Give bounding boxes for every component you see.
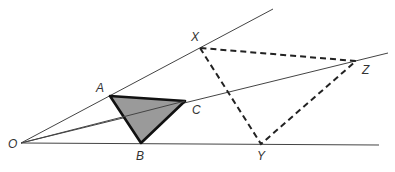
rays <box>21 9 388 145</box>
triangle-ABC <box>110 96 185 143</box>
enlargement-diagram: O A B C X Y Z <box>0 0 395 172</box>
label-C: C <box>192 103 201 117</box>
label-Y: Y <box>257 149 266 163</box>
label-A: A <box>95 81 104 95</box>
label-Z: Z <box>361 63 370 77</box>
label-O: O <box>8 137 17 151</box>
label-B: B <box>136 149 144 163</box>
label-X: X <box>190 30 200 44</box>
triangle-XYZ <box>200 48 356 144</box>
ray-OY <box>21 143 379 145</box>
ray-OZ <box>21 53 388 143</box>
